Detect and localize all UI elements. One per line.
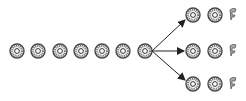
disc-icon (74, 44, 88, 58)
partial-disc-icon (230, 77, 236, 89)
diagram-canvas (0, 0, 246, 101)
disc-icon (186, 8, 200, 22)
arrow-bottom (152, 51, 185, 80)
disc-icon (138, 44, 152, 58)
disc-icon (186, 77, 200, 91)
main-chain (10, 44, 152, 58)
partial-disc-icon (230, 8, 236, 20)
disc-icon (208, 44, 222, 58)
disc-icon (186, 44, 200, 58)
branch-chains (186, 8, 236, 91)
disc-icon (10, 44, 24, 58)
disc-icon (31, 44, 45, 58)
partial-disc-icon (230, 44, 236, 56)
branching-chain-diagram (0, 0, 246, 101)
disc-icon (208, 77, 222, 91)
branch-arrows (152, 20, 185, 80)
disc-icon (53, 44, 67, 58)
disc-icon (208, 8, 222, 22)
disc-icon (95, 44, 109, 58)
arrow-top (152, 20, 185, 51)
disc-icon (116, 44, 130, 58)
